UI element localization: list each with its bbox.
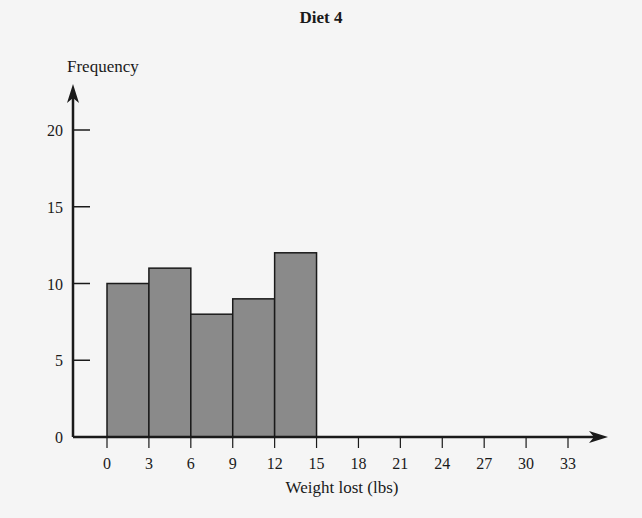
histogram-bar [149, 268, 191, 437]
x-tick-label: 30 [518, 455, 534, 472]
y-tick-label: 5 [55, 352, 63, 369]
x-tick-label: 27 [476, 455, 492, 472]
histogram-bars [107, 253, 317, 437]
x-tick-label: 0 [103, 455, 111, 472]
histogram-bar [191, 314, 233, 437]
x-tick-label: 24 [434, 455, 450, 472]
y-tick-label: 10 [47, 276, 63, 293]
y-tick-label: 15 [47, 199, 63, 216]
x-tick-label: 6 [187, 455, 195, 472]
x-tick-label: 12 [267, 455, 283, 472]
x-tick-label: 15 [309, 455, 325, 472]
y-tick-label: 0 [55, 429, 63, 446]
x-tick-label: 3 [145, 455, 153, 472]
y-tick-label: 20 [47, 122, 63, 139]
y-axis-ticks: 05101520 [47, 122, 90, 446]
histogram-bar [275, 253, 317, 437]
x-tick-label: 33 [560, 455, 576, 472]
x-tick-label: 18 [350, 455, 366, 472]
histogram-plot: 05101520 03691215182124273033 [0, 0, 642, 518]
x-tick-label: 21 [392, 455, 408, 472]
x-axis-ticks: 03691215182124273033 [103, 437, 576, 472]
histogram-bar [233, 299, 275, 437]
x-tick-label: 9 [229, 455, 237, 472]
histogram-bar [107, 284, 149, 438]
